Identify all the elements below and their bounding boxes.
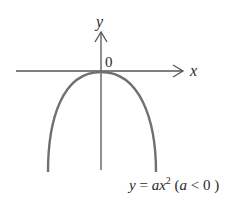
parabola-figure: y x 0 y = ax2 (a < 0 ) [0,0,226,207]
equation-cond-rel: < 0 [187,177,210,193]
equation-var: x [159,177,166,193]
equation-cond-open: ( [171,177,180,193]
origin-label: 0 [105,55,113,70]
equation-label: y = ax2 (a < 0 ) [129,176,219,193]
equation-equals: = [136,177,152,193]
equation-cond-close: ) [211,177,220,193]
x-axis-label: x [190,63,197,79]
equation-lhs: y [129,177,136,193]
parabola-curve [48,72,156,172]
y-axis-label: y [96,14,103,30]
equation-cond-var: a [180,177,188,193]
